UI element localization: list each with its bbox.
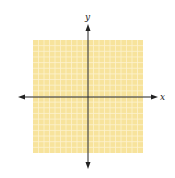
x-axis-left-arrow-icon (18, 95, 25, 100)
y-axis-bottom-arrow-icon (86, 162, 91, 169)
y-axis-top-arrow-icon (86, 24, 91, 31)
x-axis-right-arrow-icon (151, 95, 158, 100)
y-axis-label: y (84, 12, 91, 22)
coordinate-plane: x y (0, 0, 175, 178)
x-axis-label: x (160, 92, 165, 102)
